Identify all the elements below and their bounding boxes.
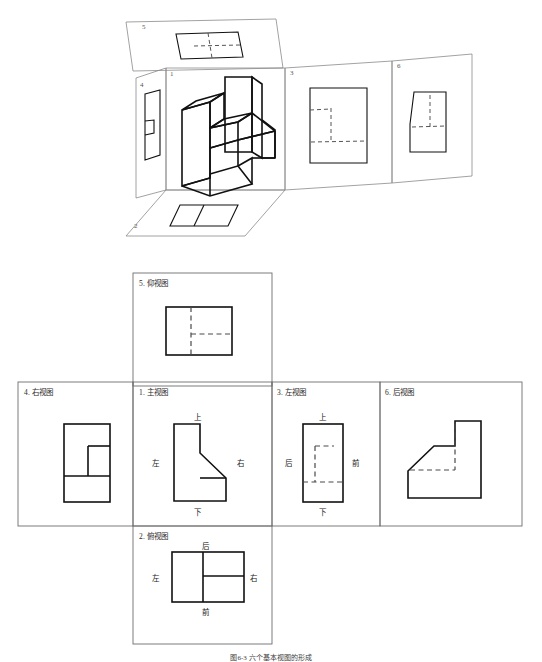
view-2-direction-front: 前 [202, 606, 209, 617]
panel-3-plane [285, 61, 392, 190]
view-1-direction-right: 右 [237, 457, 244, 468]
view-1-drawing [174, 424, 226, 501]
view-1-direction-down: 下 [194, 506, 201, 517]
view-3-direction-front: 前 [352, 457, 359, 468]
view-4-drawing [64, 424, 110, 502]
panel-number-5: 5 [142, 23, 146, 31]
view-label-4: 4. 右视图 [24, 389, 54, 397]
view-1-direction-up: 上 [194, 411, 201, 422]
six-view-grid [18, 273, 522, 644]
panel-number-2: 2 [134, 222, 138, 230]
view-2-direction-rear: 后 [202, 540, 209, 551]
panel-number-3: 3 [290, 69, 294, 77]
view-5-drawing [166, 307, 232, 355]
view-2-direction-right: 右 [250, 572, 257, 583]
view-3-drawing [303, 424, 343, 502]
view-3-direction-rear: 后 [285, 457, 292, 468]
view-label-5: 5. 仰视图 [139, 280, 169, 288]
view-label-1: 1. 主视图 [139, 389, 169, 397]
panel-number-4: 4 [140, 81, 144, 89]
panel-6-plane [392, 54, 472, 183]
view-label-3: 3. 左视图 [277, 389, 307, 397]
figure-caption: 图6-3 六个基本视图的形成 [0, 652, 542, 662]
view-1-direction-left: 左 [152, 457, 159, 468]
panel-2-plane [126, 190, 285, 236]
panel-number-1: 1 [170, 70, 174, 78]
view-label-2: 2. 俯视图 [139, 533, 169, 541]
view-6-drawing [408, 421, 481, 498]
panel-number-6: 6 [397, 62, 401, 70]
panel-5-plane [126, 19, 283, 71]
isometric-solid [182, 77, 275, 196]
view-2-direction-left: 左 [152, 572, 159, 583]
view-label-6: 6. 后视图 [385, 389, 415, 397]
view-3-direction-up: 上 [319, 411, 326, 422]
view-3-direction-down: 下 [319, 506, 326, 517]
view-2-drawing [172, 552, 244, 602]
